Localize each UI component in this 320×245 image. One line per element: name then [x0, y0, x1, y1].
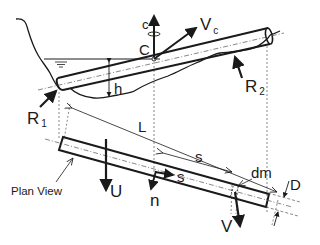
center-label: C — [139, 41, 150, 58]
projection-lines — [59, 46, 278, 225]
tangent-axis-label: s — [177, 168, 185, 185]
normal-axis-arrow — [151, 171, 156, 189]
flow-velocity-label: U — [110, 182, 122, 201]
element-velocity-label: V — [221, 217, 233, 236]
plan-view-label: Plan View — [11, 185, 63, 197]
normal-axis-label: n — [150, 191, 159, 210]
diameter-label: D — [290, 176, 301, 193]
left-bank-profile — [16, 19, 59, 88]
reaction-1-label: R1 — [27, 109, 47, 129]
elevation-view: h c C Vc R1 R2 — [16, 15, 284, 129]
log-mechanics-diagram: h c C Vc R1 R2 L s — [0, 0, 320, 245]
reaction-2-arrow — [235, 57, 242, 78]
center-velocity-label: Vc — [200, 15, 218, 36]
diameter-arrow-bottom — [274, 212, 278, 226]
depth-label: h — [114, 80, 122, 97]
plan-view-leader — [56, 158, 73, 182]
length-dimension — [72, 108, 277, 192]
diameter-ext-top — [268, 193, 300, 202]
diameter-arrow-top — [284, 181, 289, 197]
arc-length-label: s — [195, 148, 203, 165]
rotation-label: c — [142, 17, 149, 32]
water-level-symbol — [55, 62, 67, 67]
reaction-1-arrow — [40, 91, 56, 107]
plan-view: L s D dm U s n V Plan View — [11, 108, 301, 236]
length-label: L — [138, 118, 146, 135]
center-velocity-arrow — [154, 28, 196, 59]
mass-element-label: dm — [251, 164, 272, 181]
mass-element-leader — [238, 179, 252, 186]
tangent-axis-arrow — [155, 172, 173, 175]
reaction-2-label: R2 — [245, 77, 265, 97]
diameter-ext-bottom — [266, 207, 298, 216]
